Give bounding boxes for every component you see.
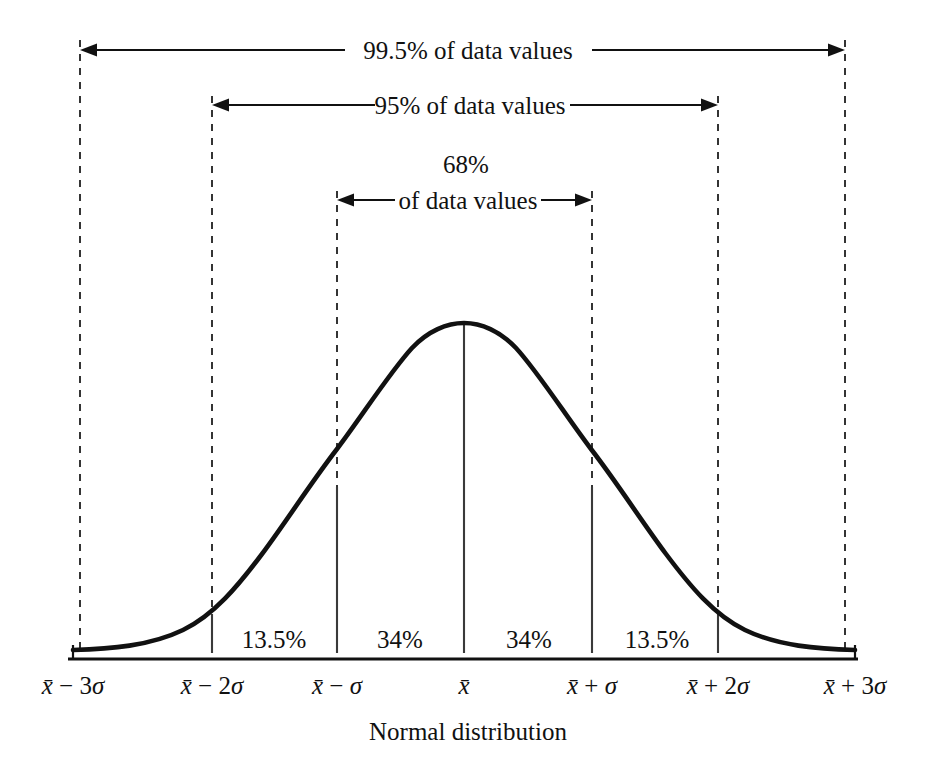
axis-label-minus-3-sigma: x̄ − 3σ	[41, 672, 106, 699]
axis-label-part-mean: x̄	[686, 672, 698, 699]
axis-label-part-op: +	[584, 672, 598, 699]
axis-label-plus-1-sigma: x̄ + σ	[566, 672, 619, 699]
annotation-99-5-percent: 99.5% of data values	[80, 37, 845, 64]
axis-label-part-mean: x̄	[180, 672, 192, 699]
axis-label-minus-1-sigma: x̄ − σ	[311, 672, 364, 699]
span-label-95-percent: 95% of data values	[375, 92, 566, 119]
axis-label-part-coef: 3	[861, 672, 874, 699]
figure-caption: Normal distribution	[369, 718, 567, 745]
arrow-left-icon	[337, 194, 354, 207]
arrow-right-icon	[575, 194, 592, 207]
axis-label-plus-2-sigma: x̄ + 2σ	[686, 672, 751, 699]
normal-distribution-figure: 99.5% of data values 95% of data values …	[0, 0, 932, 764]
axis-label-part-coef: 2	[724, 672, 737, 699]
arrow-left-icon	[212, 99, 229, 112]
axis-label-part-sigma: σ	[605, 672, 619, 699]
axis-label-minus-2-sigma: x̄ − 2σ	[180, 672, 245, 699]
axis-label-part-mean: x̄	[566, 672, 578, 699]
axis-label-mean: x̄	[457, 672, 469, 699]
arrow-right-icon	[701, 99, 718, 112]
span-label-99-5-percent: 99.5% of data values	[363, 37, 573, 64]
axis-label-part-op: +	[841, 672, 855, 699]
axis-label-part-op: +	[704, 672, 718, 699]
axis-label-part-sigma: σ	[92, 672, 106, 699]
axis-label-part-sigma: σ	[874, 672, 888, 699]
region-label-left-34-percent: 34%	[377, 626, 423, 653]
bell-curve-chart: 99.5% of data values 95% of data values …	[0, 0, 932, 764]
span-label-68-percent-value: 68%	[443, 151, 489, 178]
axis-label-part-mean: x̄	[41, 672, 53, 699]
axis-label-part-mean: x̄	[311, 672, 323, 699]
axis-label-part-sigma: σ	[231, 672, 245, 699]
annotation-68-percent: 68% of data values	[337, 151, 592, 214]
axis-label-part-op: −	[329, 672, 343, 699]
axis-label-part-op: −	[59, 672, 73, 699]
arrow-left-icon	[80, 44, 97, 57]
axis-label-part-mean: x̄	[823, 672, 835, 699]
axis-label-part-coef: 3	[79, 672, 92, 699]
axis-label-part-op: −	[198, 672, 212, 699]
arrow-right-icon	[828, 44, 845, 57]
region-label-right-34-percent: 34%	[506, 626, 552, 653]
axis-label-part-sigma: σ	[350, 672, 364, 699]
axis-label-part-sigma: σ	[737, 672, 751, 699]
span-label-68-percent-text: of data values	[399, 187, 538, 214]
axis-label-plus-3-sigma: x̄ + 3σ	[823, 672, 888, 699]
annotation-95-percent: 95% of data values	[212, 92, 718, 119]
axis-label-part-coef: 2	[218, 672, 231, 699]
axis-label-part-mean: x̄	[457, 672, 469, 699]
x-axis-tick-labels: x̄ − 3σ x̄ − 2σ x̄ − σ x̄ x̄ + σ x̄ + 2σ…	[41, 672, 888, 699]
region-label-right-13-5-percent: 13.5%	[625, 626, 690, 653]
region-label-left-13-5-percent: 13.5%	[242, 626, 307, 653]
